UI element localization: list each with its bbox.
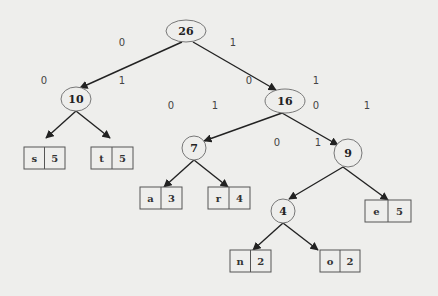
edge-n26-n16 xyxy=(193,42,276,90)
edge-label: 0 xyxy=(41,75,47,86)
leaf-symbol: e xyxy=(373,206,379,217)
node-weight: 4 xyxy=(279,205,287,218)
edge-n4-o xyxy=(283,223,318,250)
edge-label: 1 xyxy=(119,75,125,86)
edge-label: 0 xyxy=(246,75,252,86)
leaf-weight: 5 xyxy=(51,153,58,164)
node-weight: 9 xyxy=(344,147,352,160)
leaf-node-a: a3 xyxy=(140,187,182,209)
edge-n16-n9 xyxy=(282,113,338,145)
leaf-node-e: e5 xyxy=(365,200,411,222)
edge-n26-n10 xyxy=(80,42,182,88)
leaf-node-r: r4 xyxy=(208,187,250,209)
node-weight: 26 xyxy=(178,25,194,38)
node-weight: 10 xyxy=(68,93,84,106)
edge-label: 1 xyxy=(212,100,218,111)
edge-n9-e xyxy=(343,167,388,200)
edge-n10-s xyxy=(46,111,76,138)
edge-label: 0 xyxy=(168,100,174,111)
edge-labels-layer: 010101010101 xyxy=(41,37,370,148)
leaf-weight: 2 xyxy=(257,256,264,267)
leaf-weight: 3 xyxy=(168,193,175,204)
internal-node-10: 10 xyxy=(61,87,91,111)
edge-label: 0 xyxy=(119,37,125,48)
internal-node-26: 26 xyxy=(166,20,206,42)
edge-n9-n4 xyxy=(289,167,343,199)
leaf-symbol: t xyxy=(99,153,104,164)
edge-n4-n xyxy=(253,223,283,250)
edge-label: 0 xyxy=(274,137,280,148)
leaf-node-o: o2 xyxy=(320,250,360,272)
leaf-symbol: r xyxy=(216,193,222,204)
internal-node-9: 9 xyxy=(334,139,362,167)
huffman-tree-diagram: 010101010101 261016794 s5t5a3r4e5n2o2 xyxy=(0,0,438,296)
edge-label: 1 xyxy=(230,37,236,48)
leaf-symbol: a xyxy=(147,193,154,204)
leaf-node-s: s5 xyxy=(24,147,65,169)
internal-node-4: 4 xyxy=(271,199,295,223)
leaf-symbol: n xyxy=(237,256,245,267)
node-weight: 16 xyxy=(277,95,293,108)
leaf-symbol: o xyxy=(327,256,334,267)
node-weight: 7 xyxy=(190,142,198,155)
leaf-weight: 2 xyxy=(347,256,354,267)
internal-node-16: 16 xyxy=(265,89,305,113)
edge-n10-t xyxy=(76,111,110,138)
edge-label: 1 xyxy=(364,100,370,111)
leaf-weight: 5 xyxy=(119,153,126,164)
leaf-node-t: t5 xyxy=(91,147,133,169)
edge-label: 0 xyxy=(313,100,319,111)
leaf-weight: 4 xyxy=(236,193,243,204)
leaf-symbol: s xyxy=(31,153,37,164)
edge-n7-r xyxy=(194,160,228,187)
edge-n7-a xyxy=(164,160,194,187)
leaf-weight: 5 xyxy=(396,206,403,217)
leaf-node-n: n2 xyxy=(230,250,271,272)
edge-label: 1 xyxy=(315,137,321,148)
edge-label: 1 xyxy=(313,75,319,86)
edge-n16-n7 xyxy=(204,113,282,141)
internal-node-7: 7 xyxy=(182,136,206,160)
